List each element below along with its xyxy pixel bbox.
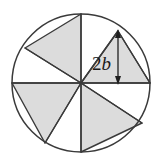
dimension-label-variable: b xyxy=(102,53,112,74)
upper-left-shaded-triangle xyxy=(25,14,81,83)
lower-left-shaded-triangle xyxy=(12,83,81,143)
circle-sector-diagram: 2b xyxy=(0,0,161,166)
dimension-label-2b: 2b xyxy=(92,53,111,74)
dimension-label-coefficient: 2 xyxy=(92,53,102,74)
geometry-figure: 2b xyxy=(0,0,161,166)
